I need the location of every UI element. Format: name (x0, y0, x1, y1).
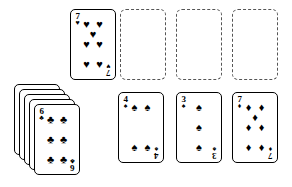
pip-icon: ♠ (196, 122, 202, 133)
card-pip-area: ♠♠♠ (186, 98, 212, 157)
pip-icon: ♥ (83, 59, 90, 70)
card-4-of-spades[interactable]: 4♠♠♠♠♠4♠ (118, 92, 164, 163)
pip-icon: ♣ (47, 134, 54, 145)
pip-icon: ♦ (259, 142, 265, 153)
pip-icon: ♣ (47, 154, 54, 165)
pip-icon: ♠ (145, 102, 151, 113)
card-index-bottom-right: 7♦ (266, 146, 275, 160)
card-3-of-spades[interactable]: 3♠♠♠♠3♠ (176, 92, 222, 163)
pip-icon: ♥ (83, 39, 90, 50)
card-pip-area: ♠♠♠♠ (128, 98, 154, 157)
card-index-bottom-right: 4♠ (152, 146, 161, 160)
pip-icon: ♦ (259, 122, 265, 133)
pip-icon: ♣ (60, 114, 67, 125)
pip-icon: ♠ (132, 142, 138, 153)
empty-foundation-slot[interactable] (120, 9, 166, 80)
card-pip-area: ♥ ♥ ♥ ♥ ♥ ♥ ♥ (80, 15, 106, 74)
pip-icon: ♦ (246, 142, 252, 153)
empty-foundation-slot[interactable] (176, 9, 222, 80)
pip-icon: ♠ (132, 102, 138, 113)
card-7-of-diamonds[interactable]: 7♦♦♦♦♦♦♦♦7♦ (232, 92, 278, 163)
empty-foundation-slot[interactable] (232, 9, 278, 80)
card-index-bottom-right: 7 ♥ (104, 63, 113, 77)
card-suit-mini-icon: ♣ (68, 158, 77, 164)
pip-icon: ♦ (252, 112, 258, 123)
card-pip-area: ♣ ♣ ♣ ♣ ♣ ♣ (44, 110, 70, 169)
pip-icon: ♦ (246, 102, 252, 113)
card-7-of-hearts[interactable]: 7 ♥ ♥ ♥ ♥ ♥ ♥ ♥ ♥ 7 ♥ (70, 9, 116, 80)
pip-icon: ♣ (47, 114, 54, 125)
card-6-of-clubs[interactable]: 6 ♣ ♣ ♣ ♣ ♣ ♣ ♣ 6 ♣ (34, 104, 80, 175)
card-table-board: 7 ♥ ♥ ♥ ♥ ♥ ♥ ♥ ♥ 7 ♥ 6 ♣ (0, 0, 292, 187)
card-pip-area: ♦♦♦♦♦♦♦ (242, 98, 268, 157)
pip-icon: ♦ (259, 102, 265, 113)
pip-icon: ♠ (196, 102, 202, 113)
pip-icon: ♣ (60, 134, 67, 145)
card-index-bottom-right: 6 ♣ (68, 158, 77, 172)
pip-icon: ♥ (96, 59, 103, 70)
pip-icon: ♣ (60, 154, 67, 165)
pip-icon: ♦ (246, 122, 252, 133)
pip-icon: ♠ (145, 142, 151, 153)
pip-icon: ♠ (196, 142, 202, 153)
pip-icon: ♥ (96, 39, 103, 50)
card-index-bottom-right: 3♠ (210, 146, 219, 160)
pip-icon: ♥ (96, 19, 103, 30)
